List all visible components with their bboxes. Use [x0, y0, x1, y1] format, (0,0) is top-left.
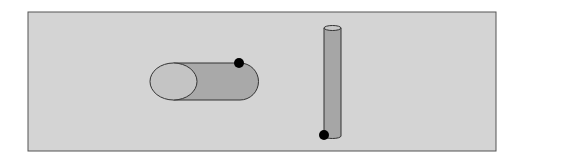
- horizontal-cylinder-marker: [234, 58, 244, 68]
- horizontal-cylinder: [150, 58, 259, 100]
- diagram-canvas: [0, 0, 565, 163]
- diagram-panel: [28, 12, 496, 151]
- horizontal-cylinder-end: [150, 63, 197, 100]
- vertical-cylinder-top: [324, 26, 341, 31]
- vertical-cylinder-marker: [319, 130, 329, 140]
- vertical-cylinder-body: [324, 28, 341, 139]
